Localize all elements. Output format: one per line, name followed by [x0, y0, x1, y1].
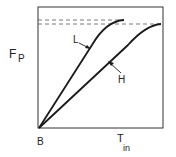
curve-label-l: L [73, 34, 79, 45]
origin-label: B [37, 136, 44, 147]
y-axis-subscript: P [18, 53, 25, 64]
y-axis-label: F [9, 47, 16, 61]
curve-l [39, 20, 124, 128]
curve-h [39, 24, 161, 128]
curve-label-h: H [118, 74, 125, 85]
plot-frame [38, 7, 163, 128]
x-axis-subscript: in [123, 143, 130, 153]
diagram-canvas: L H F P B T in [0, 0, 176, 157]
